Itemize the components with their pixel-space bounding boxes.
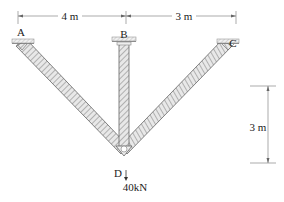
truss-diagram: 4 m 3 m A B C D 40kN <box>0 0 284 202</box>
dimension-vertical-label: 3 m <box>250 121 267 133</box>
node-d-label: D <box>114 167 122 179</box>
dimension-ab-label: 4 m <box>62 10 79 22</box>
load-label: 40kN <box>123 181 148 193</box>
dimension-bc-label: 3 m <box>176 10 193 22</box>
member-cd <box>120 40 232 154</box>
member-bd <box>119 44 129 148</box>
node-a-label: A <box>17 26 25 38</box>
node-c-label: C <box>229 37 236 49</box>
node-b-label: B <box>120 28 127 40</box>
member-ad <box>16 40 128 154</box>
dimension-top <box>18 9 236 24</box>
load-arrow-icon <box>124 170 128 181</box>
